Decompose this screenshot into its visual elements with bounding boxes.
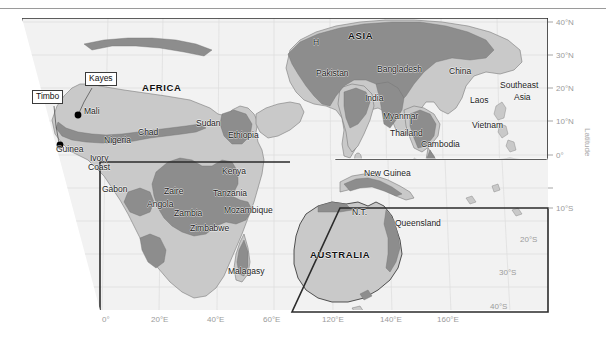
lon-tick-20e: 20°E	[151, 315, 168, 324]
lon-tick-160e: 160°E	[437, 315, 459, 324]
lat-tick-40n: 40°N	[556, 18, 574, 27]
australia-inset-panel	[290, 160, 548, 314]
lat-tick-20n: 20°N	[556, 84, 574, 93]
callout-timbo[interactable]: Timbo	[32, 90, 63, 104]
callout-kayes[interactable]: Kayes	[85, 72, 117, 86]
lat-tick-40s: 40°S	[490, 302, 507, 311]
lat-tick-10n: 10°N	[556, 117, 574, 126]
figure-page: AFRICA ASIA AUSTRALIA H Pakistan Banglad…	[0, 0, 606, 337]
latitude-axis-title: Latitude	[583, 128, 592, 156]
locality-point-kayes	[75, 112, 82, 119]
lat-tick-30n: 30°N	[556, 51, 574, 60]
map-figure: AFRICA ASIA AUSTRALIA H Pakistan Banglad…	[0, 10, 606, 330]
page-top-rule	[0, 8, 606, 9]
lat-tick-20s: 20°S	[520, 235, 537, 244]
lon-tick-120e: 120°E	[322, 315, 344, 324]
locality-point-timbo	[57, 142, 64, 149]
lon-tick-0: 0°	[102, 315, 110, 324]
lon-tick-140e: 140°E	[380, 315, 402, 324]
map-canvas	[0, 10, 606, 330]
axis-ticks	[548, 22, 553, 208]
lat-tick-30s: 30°S	[499, 268, 516, 277]
lat-tick-0: 0°	[556, 151, 564, 160]
lon-tick-40e: 40°E	[207, 315, 224, 324]
lon-tick-60e: 60°E	[263, 315, 280, 324]
lat-tick-10s: 10°S	[556, 204, 573, 213]
